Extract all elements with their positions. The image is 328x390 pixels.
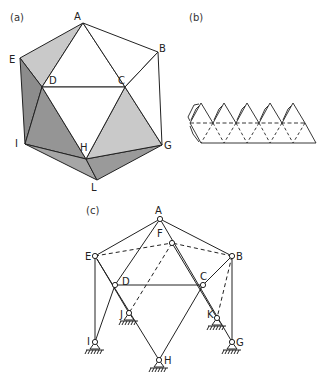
- panel-label-b: (b): [189, 12, 203, 23]
- bar-C-H: [159, 285, 203, 360]
- joint-F: [169, 240, 174, 245]
- vertex-label-B: B: [159, 43, 166, 54]
- joint-I: [92, 339, 97, 344]
- panel-c-linkage: [85, 216, 241, 372]
- vertex-label-L: L: [91, 182, 97, 193]
- vertex-label-A-c: A: [155, 205, 162, 216]
- joint-H: [156, 357, 161, 362]
- joint-A: [157, 216, 162, 221]
- joint-K: [214, 315, 219, 320]
- diagram-svg: (a) A B C D E G H I L (b): [0, 0, 328, 390]
- diagram-canvas: (a) A B C D E G H I L (b): [0, 0, 328, 390]
- panel-b-net: (b): [188, 12, 316, 143]
- vertex-label-B-c: B: [236, 251, 243, 262]
- bar-F-K: [172, 243, 217, 318]
- ground-supports: [85, 313, 241, 372]
- vertex-label-F-c: F: [157, 228, 163, 239]
- bar-A-E: [95, 219, 160, 256]
- vertex-label-H-c: H: [164, 355, 172, 366]
- net-left-lower-edge: [190, 123, 201, 143]
- vertex-label-D-c: D: [122, 276, 130, 287]
- bar-B-C: [203, 256, 232, 285]
- vertex-label-I-c: I: [87, 336, 90, 347]
- vertex-label-D: D: [49, 75, 57, 86]
- vertex-label-K-c: K: [207, 309, 214, 320]
- panel-a-icosahedron: [20, 23, 162, 180]
- vertex-label-E: E: [9, 54, 15, 65]
- panel-label-c: (c): [86, 205, 99, 216]
- joint-G: [229, 339, 234, 344]
- joint-C: [200, 282, 205, 287]
- vertex-label-C-c: C: [200, 271, 207, 282]
- vertex-label-C: C: [118, 75, 125, 86]
- vertex-label-G: G: [164, 140, 172, 151]
- joint-J: [126, 310, 131, 315]
- vertex-label-I: I: [15, 138, 18, 149]
- joint-E: [92, 253, 97, 258]
- vertex-label-H: H: [80, 142, 88, 153]
- bar-D-I: [95, 285, 115, 342]
- vertex-label-J-c: J: [119, 309, 123, 320]
- vertex-label-G-c: G: [236, 337, 244, 348]
- joint-D: [112, 282, 117, 287]
- joint-B: [229, 253, 234, 258]
- vertex-label-E-c: E: [85, 251, 91, 262]
- net-fold-diagonals: [201, 123, 305, 143]
- vertex-label-A: A: [74, 11, 81, 22]
- panel-label-a: (a): [10, 12, 24, 23]
